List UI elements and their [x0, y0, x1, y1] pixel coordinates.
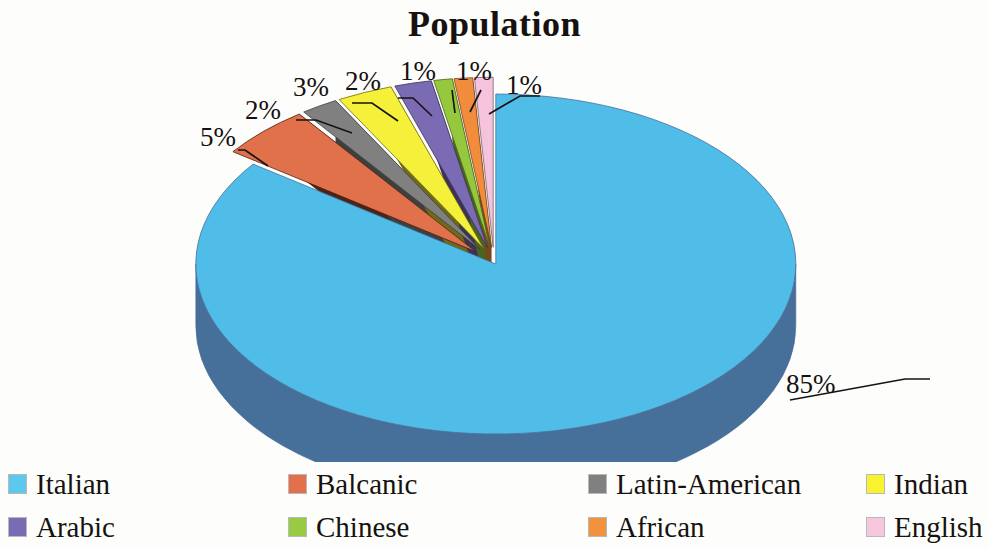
- legend-row: ArabicChineseAfricanEnglish: [0, 505, 989, 548]
- legend-item-arabic[interactable]: Arabic: [8, 509, 115, 545]
- legend-label: Indian: [894, 469, 968, 499]
- legend-item-chinese[interactable]: Chinese: [288, 509, 409, 545]
- legend-item-italian[interactable]: Italian: [8, 466, 110, 502]
- legend-swatch-icon: [8, 474, 27, 494]
- chart-legend: ItalianBalcanicLatin-AmericanIndian Arab…: [0, 462, 989, 548]
- legend-item-balcanic[interactable]: Balcanic: [288, 466, 417, 502]
- legend-label: African: [616, 512, 705, 542]
- callout-balcanic: 5%: [200, 124, 236, 151]
- legend-item-indian[interactable]: Indian: [866, 466, 968, 502]
- callout-indian: 3%: [293, 74, 329, 101]
- legend-label: Balcanic: [316, 469, 417, 499]
- callout-chinese: 1%: [400, 58, 436, 85]
- callout-latin-american: 2%: [245, 97, 281, 124]
- legend-swatch-icon: [8, 517, 27, 537]
- callout-african: 1%: [456, 58, 492, 85]
- pie-chart-svg: [0, 0, 989, 462]
- legend-swatch-icon: [288, 517, 307, 537]
- pie-plot-area: [0, 0, 989, 462]
- legend-swatch-icon: [588, 517, 607, 537]
- legend-swatch-icon: [588, 474, 607, 494]
- legend-label: Italian: [36, 469, 110, 499]
- legend-row: ItalianBalcanicLatin-AmericanIndian: [0, 462, 989, 505]
- pie-chart-page: Population 85%5%2%3%2%1%1%1% ItalianBalc…: [0, 0, 989, 548]
- legend-item-english[interactable]: English: [866, 509, 983, 545]
- legend-item-african[interactable]: African: [588, 509, 705, 545]
- legend-swatch-icon: [866, 517, 885, 537]
- legend-label: Latin-American: [616, 469, 801, 499]
- legend-item-latin-american[interactable]: Latin-American: [588, 466, 801, 502]
- legend-label: Arabic: [36, 512, 115, 542]
- callout-italian: 85%: [786, 371, 836, 398]
- legend-swatch-icon: [866, 474, 885, 494]
- legend-label: Chinese: [316, 512, 409, 542]
- legend-swatch-icon: [288, 474, 307, 494]
- legend-label: English: [894, 512, 983, 542]
- pie-slice-tops: [196, 77, 796, 434]
- callout-arabic: 2%: [345, 68, 381, 95]
- callout-english: 1%: [506, 72, 542, 99]
